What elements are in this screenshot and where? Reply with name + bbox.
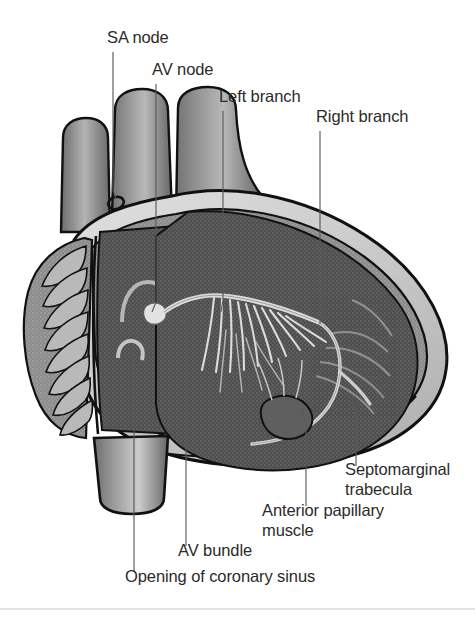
label-left-branch: Left branch	[219, 87, 300, 105]
label-right-branch: Right branch	[316, 107, 408, 125]
anatomy-figure: SA node AV node Left branch Right branch…	[0, 0, 475, 618]
label-av-node: AV node	[152, 60, 213, 78]
label-sa-node: SA node	[107, 28, 169, 46]
label-septomarginal-trabecula-line2: trabecula	[345, 480, 413, 498]
label-opening-of-coronary-sinus: Opening of coronary sinus	[125, 567, 315, 585]
label-av-bundle: AV bundle	[178, 541, 252, 559]
heart-conduction-diagram: SA node AV node Left branch Right branch…	[0, 0, 475, 618]
label-anterior-papillary-muscle-line2: muscle	[262, 521, 314, 539]
inferior-vena-cava	[94, 436, 168, 514]
label-septomarginal-trabecula: Septomarginal	[345, 460, 450, 478]
inferior-vena-cava-group	[94, 436, 168, 514]
label-anterior-papillary-muscle: Anterior papillary	[262, 501, 385, 519]
